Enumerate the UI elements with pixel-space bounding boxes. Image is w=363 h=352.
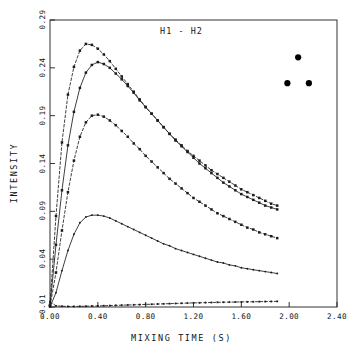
marker-point <box>198 159 201 162</box>
marker-point <box>204 164 207 167</box>
marker-point <box>240 188 243 191</box>
marker-point <box>67 306 69 308</box>
series-line-curve-2 <box>50 62 277 306</box>
marker-point <box>276 208 279 211</box>
marker-point <box>139 231 141 233</box>
marker-point <box>144 155 147 158</box>
marker-point <box>270 272 272 274</box>
marker-point <box>270 235 273 238</box>
marker-point <box>97 305 99 307</box>
marker-point <box>240 223 243 226</box>
y-tick-label-5: 0.04 <box>38 244 47 274</box>
marker-point <box>73 66 76 69</box>
marker-point <box>246 301 248 303</box>
marker-point <box>55 292 57 294</box>
marker-point <box>85 121 88 124</box>
marker-point <box>240 193 243 196</box>
marker-point <box>145 234 147 236</box>
marker-point <box>175 303 177 305</box>
marker-point <box>174 139 177 142</box>
marker-point <box>240 301 242 303</box>
marker-point <box>55 305 57 307</box>
x-tick-label-2: 0.80 <box>126 312 166 321</box>
marker-point <box>126 135 129 138</box>
marker-point <box>210 208 213 211</box>
marker-point <box>258 197 261 200</box>
marker-point <box>199 255 201 257</box>
marker-point <box>234 189 237 192</box>
marker-point <box>270 301 272 303</box>
marker-point <box>67 191 70 194</box>
marker-point <box>91 214 93 216</box>
marker-point <box>121 75 124 78</box>
marker-point <box>109 60 112 63</box>
marker-point <box>109 67 112 70</box>
marker-point <box>228 301 230 303</box>
marker-point <box>61 189 64 192</box>
marker-point <box>115 72 118 75</box>
marker-point <box>228 180 231 183</box>
marker-point <box>61 229 64 232</box>
annotation-dot-right <box>306 80 312 86</box>
marker-point <box>264 301 266 303</box>
marker-point <box>115 68 118 71</box>
series-markers-curve-1 <box>49 43 279 307</box>
marker-point <box>252 199 255 202</box>
marker-point <box>138 148 141 151</box>
marker-point <box>150 160 153 163</box>
marker-point <box>264 233 267 236</box>
marker-point <box>145 304 147 306</box>
marker-point <box>174 182 177 185</box>
marker-point <box>133 229 135 231</box>
marker-point <box>252 228 255 231</box>
marker-point <box>156 119 159 122</box>
marker-point <box>234 301 236 303</box>
marker-point <box>138 99 141 102</box>
marker-point <box>162 126 165 128</box>
marker-point <box>222 177 225 180</box>
marker-point <box>192 197 195 200</box>
y-tick-label-0: 0.29 <box>38 5 47 35</box>
marker-point <box>198 201 201 204</box>
marker-point <box>246 268 248 270</box>
marker-point <box>163 303 165 305</box>
marker-point <box>85 216 87 218</box>
marker-point <box>252 194 255 197</box>
x-tick-label-6: 2.40 <box>317 312 357 321</box>
marker-point <box>126 85 129 88</box>
marker-point <box>115 304 117 306</box>
marker-point <box>49 306 51 308</box>
marker-point <box>67 93 70 96</box>
y-tick-label-4: 0.09 <box>38 196 47 226</box>
marker-point <box>157 240 159 242</box>
marker-point <box>168 133 171 136</box>
marker-point <box>216 177 219 180</box>
marker-point <box>193 302 195 304</box>
marker-point <box>144 106 147 109</box>
marker-point <box>240 267 242 269</box>
marker-point <box>91 64 94 67</box>
marker-point <box>73 233 75 235</box>
marker-point <box>150 113 153 116</box>
marker-point <box>216 173 219 176</box>
marker-point <box>223 301 225 303</box>
marker-point <box>103 215 105 217</box>
marker-point <box>121 130 124 133</box>
marker-point <box>109 119 112 122</box>
marker-point <box>264 200 267 203</box>
marker-point <box>264 204 267 207</box>
series-line-curve-3 <box>50 115 277 306</box>
marker-point <box>187 252 189 254</box>
marker-point <box>205 302 207 304</box>
marker-point <box>205 257 207 259</box>
marker-point <box>252 301 254 303</box>
marker-point <box>97 214 99 216</box>
marker-point <box>163 243 165 245</box>
marker-point <box>103 53 106 56</box>
marker-point <box>169 245 171 247</box>
marker-point <box>246 226 249 229</box>
marker-point <box>85 305 87 307</box>
marker-point <box>162 172 165 175</box>
marker-point <box>234 221 237 224</box>
marker-point <box>79 135 82 138</box>
